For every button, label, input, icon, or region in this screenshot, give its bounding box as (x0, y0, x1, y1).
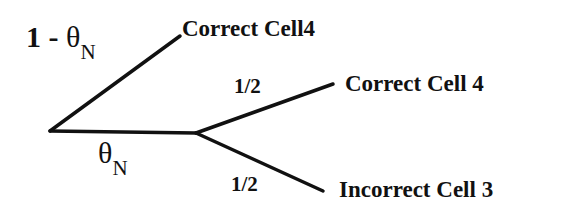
prob-label-lower: θN (98, 136, 128, 170)
branch-lower-lower-line (196, 133, 323, 191)
prob-prefix: 1 - (26, 20, 66, 53)
theta-symbol: θ (66, 20, 80, 53)
outcome-label-upper: Correct Cell4 (182, 16, 315, 42)
prob-label-upper: 1 - θN (26, 20, 96, 54)
branch-lower-upper-line (196, 84, 333, 133)
prob-label-lower-lower: 1/2 (231, 172, 258, 197)
branch-lower-line (50, 131, 196, 133)
subscript: N (80, 40, 95, 64)
outcome-label-lower-lower: Incorrect Cell 3 (339, 177, 493, 203)
subscript: N (112, 156, 127, 180)
prob-label-lower-upper: 1/2 (234, 74, 261, 99)
outcome-label-lower-upper: Correct Cell 4 (345, 71, 484, 97)
theta-symbol: θ (98, 136, 112, 169)
